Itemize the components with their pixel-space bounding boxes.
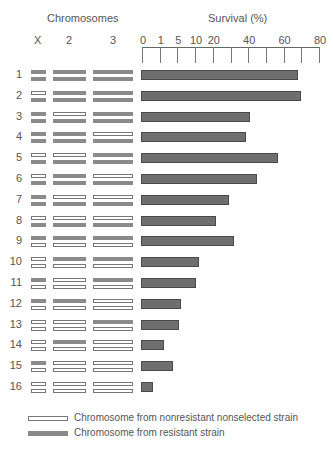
survival-bar xyxy=(141,320,179,330)
chromosome-x-bottom xyxy=(31,368,46,372)
row-label: 15 xyxy=(8,359,22,371)
chromosome-x-top xyxy=(31,91,46,95)
chromosome-2-bottom xyxy=(53,243,86,247)
chromosome-x-top xyxy=(31,132,46,136)
row-label: 6 xyxy=(8,172,22,184)
survival-bar xyxy=(141,340,164,350)
chromosome-2-bottom xyxy=(53,77,86,81)
chromosome-3-top xyxy=(93,174,133,178)
row-label: 2 xyxy=(8,89,22,101)
row-label: 3 xyxy=(8,110,22,122)
x-tick-label: 20 xyxy=(208,34,220,46)
chromosome-2-top xyxy=(53,236,86,240)
chromosome-3-top xyxy=(93,257,133,261)
x-axis-tick xyxy=(319,47,320,63)
chromosome-3-top xyxy=(93,361,133,365)
chromosome-2-bottom xyxy=(53,181,86,185)
chromosome-x-bottom xyxy=(31,119,46,123)
survival-bar xyxy=(141,257,199,267)
chromosome-2-bottom xyxy=(53,160,86,164)
chromosome-x-top xyxy=(31,112,46,116)
x-tick-label: 10 xyxy=(190,34,202,46)
chromosome-2-bottom xyxy=(53,139,86,143)
row-label: 7 xyxy=(8,193,22,205)
chromosome-3-bottom xyxy=(93,327,133,331)
chromosome-2-top xyxy=(53,174,86,178)
survival-bar xyxy=(141,91,301,101)
chromosome-2-top xyxy=(53,132,86,136)
chromosome-x-bottom xyxy=(31,77,46,81)
chromosome-3-bottom xyxy=(93,347,133,351)
survival-bar xyxy=(141,361,173,371)
chromosome-3-bottom xyxy=(93,160,133,164)
chromosome-2-bottom xyxy=(53,347,86,351)
chromosome-2-top xyxy=(53,91,86,95)
chromosome-2-bottom xyxy=(53,223,86,227)
chromosome-2-bottom xyxy=(53,327,86,331)
column-header-x: X xyxy=(34,34,41,46)
x-axis-tick xyxy=(266,47,267,63)
chromosome-3-top xyxy=(93,320,133,324)
chromosome-2-bottom xyxy=(53,264,86,268)
x-axis-tick xyxy=(213,47,214,63)
x-axis-tick xyxy=(301,47,302,63)
chromosome-x-top xyxy=(31,382,46,386)
x-axis-tick xyxy=(284,47,285,63)
x-axis-tick xyxy=(142,47,143,63)
chromosome-2-top xyxy=(53,216,86,220)
chromosome-x-bottom xyxy=(31,181,46,185)
legend-label-nonresistant: Chromosome from nonresistant nonselected… xyxy=(74,412,298,423)
chromosome-3-top xyxy=(93,278,133,282)
chromosome-3-top xyxy=(93,195,133,199)
chromosome-3-top xyxy=(93,236,133,240)
chromosome-2-top xyxy=(53,340,86,344)
chromosome-3-bottom xyxy=(93,77,133,81)
chromosome-x-bottom xyxy=(31,347,46,351)
survival-bar xyxy=(141,195,229,205)
x-axis-tick xyxy=(248,47,249,63)
chromosome-x-bottom xyxy=(31,327,46,331)
chromosome-2-bottom xyxy=(53,285,86,289)
chromosome-x-top xyxy=(31,236,46,240)
chromosome-3-bottom xyxy=(93,389,133,393)
x-tick-label: 0 xyxy=(140,34,146,46)
chromosome-x-top xyxy=(31,195,46,199)
chromosome-3-bottom xyxy=(93,368,133,372)
row-label: 4 xyxy=(8,130,22,142)
chromosome-3-bottom xyxy=(93,181,133,185)
chromosome-x-bottom xyxy=(31,243,46,247)
chromosome-2-bottom xyxy=(53,389,86,393)
chromosome-x-top xyxy=(31,174,46,178)
chromosomes-header: Chromosomes xyxy=(47,12,119,24)
x-axis-tick xyxy=(231,47,232,63)
survival-bar xyxy=(141,153,278,163)
x-tick-label: 1 xyxy=(158,34,164,46)
x-tick-label: 60 xyxy=(278,34,290,46)
chromosome-3-bottom xyxy=(93,243,133,247)
chromosome-2-bottom xyxy=(53,306,86,310)
chromosome-x-top xyxy=(31,320,46,324)
chromosome-3-top xyxy=(93,299,133,303)
chromosome-x-bottom xyxy=(31,223,46,227)
chromosome-x-top xyxy=(31,340,46,344)
chromosome-3-bottom xyxy=(93,119,133,123)
row-label: 1 xyxy=(8,68,22,80)
chromosome-3-bottom xyxy=(93,202,133,206)
survival-bar xyxy=(141,236,234,246)
chromosome-3-bottom xyxy=(93,98,133,102)
row-label: 13 xyxy=(8,318,22,330)
x-axis-tick xyxy=(160,47,161,63)
survival-bar xyxy=(141,299,181,309)
chromosome-x-bottom xyxy=(31,202,46,206)
chromosome-2-bottom xyxy=(53,119,86,123)
survival-bar xyxy=(141,132,246,142)
x-tick-label: 40 xyxy=(243,34,255,46)
survival-bar xyxy=(141,70,298,80)
x-axis-tick xyxy=(177,47,178,63)
chromosome-3-top xyxy=(93,216,133,220)
chromosome-x-top xyxy=(31,278,46,282)
chromosome-2-top xyxy=(53,320,86,324)
row-label: 5 xyxy=(8,151,22,163)
chromosome-3-bottom xyxy=(93,285,133,289)
chromosome-2-top xyxy=(53,361,86,365)
